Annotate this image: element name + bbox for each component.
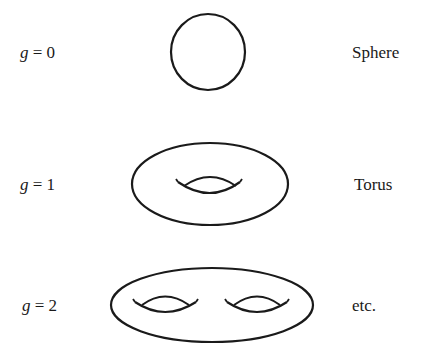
torus-shape bbox=[132, 143, 288, 225]
genus-label-1: g = 1 bbox=[20, 176, 55, 193]
genus-label-2: g = 2 bbox=[22, 297, 57, 314]
genus-label-0: g = 0 bbox=[20, 44, 55, 61]
surface-name-sphere: Sphere bbox=[352, 44, 399, 61]
genus-value: = 1 bbox=[29, 175, 56, 194]
surface-name-torus: Torus bbox=[354, 176, 392, 193]
genus-value: = 0 bbox=[29, 43, 56, 62]
genus-value: = 2 bbox=[31, 296, 58, 315]
surface-name-etc: etc. bbox=[352, 297, 376, 314]
genus-variable: g bbox=[22, 296, 31, 315]
genus-variable: g bbox=[20, 175, 29, 194]
genus-variable: g bbox=[20, 43, 29, 62]
double-torus-shape bbox=[111, 268, 313, 342]
sphere-shape bbox=[171, 14, 245, 90]
